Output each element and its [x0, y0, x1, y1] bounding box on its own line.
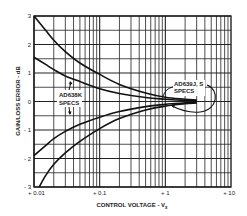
x-axis-title-sub: x [165, 205, 168, 210]
y-tick-label: - 2 [24, 156, 32, 162]
annotation-ad639-line1: AD639J, S [174, 81, 203, 87]
y-tick-label: 3 [28, 13, 32, 19]
annotation-ad638k-arrowhead-up [69, 81, 73, 85]
x-tick-label: + 10 [223, 190, 236, 196]
y-tick-label: 0 [28, 99, 32, 105]
y-axis-title: GAIN/LOSS ERROR - dB [15, 66, 21, 136]
y-tick-labels: 3210- 1- 2- 3 [24, 13, 32, 190]
x-tick-label: + 0.1 [93, 190, 107, 196]
x-tick-label: + 1 [161, 190, 170, 196]
annotation-ad639-arrow-left [163, 87, 173, 96]
annotation-ad638k-line1: AD638K [59, 92, 83, 98]
annotation-ad638k-arrowhead-down [68, 112, 72, 116]
y-tick-label: 2 [28, 42, 32, 48]
y-tick-label: 1 [28, 70, 32, 76]
y-tick-label: - 1 [24, 127, 32, 133]
annotation-ad639-line2: SPECS [174, 88, 194, 94]
x-axis-title-main: CONTROL VOLTAGE - V [96, 202, 165, 208]
x-tick-label: + 0.01 [28, 190, 46, 196]
annotation-ad638k-line2: SPECS [59, 100, 79, 106]
curve-ad639j-s-lower-limit [34, 102, 197, 155]
x-axis-title: CONTROL VOLTAGE - Vx [96, 202, 168, 210]
gain-loss-error-chart: 3210- 1- 2- 3 + 0.01+ 0.1+ 1+ 10 GAIN/LO… [0, 0, 247, 216]
x-tick-labels: + 0.01+ 0.1+ 1+ 10 [28, 190, 236, 196]
